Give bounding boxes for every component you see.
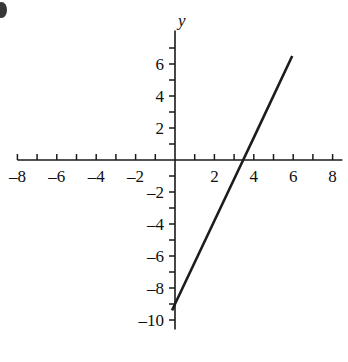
x-tick-label: –4 [87,167,106,186]
plotted-line [172,56,292,310]
y-tick-label: –4 [146,215,165,234]
y-tick-label: –2 [146,183,164,202]
y-axis-tick-labels: 642–2–4–6–8–10 [138,55,165,330]
y-axis-label: y [176,11,186,30]
y-tick-label: –6 [146,247,164,266]
y-axis-tick-group [169,48,175,320]
x-tick-label: –8 [8,167,26,186]
y-tick-label: 6 [156,55,165,74]
y-tick-label: 4 [156,87,165,106]
x-tick-label: –2 [126,167,144,186]
x-tick-label: –6 [47,167,65,186]
x-tick-label: 6 [289,167,298,186]
coordinate-plane-graph: –8–6–4–22468 642–2–4–6–8–10 x y [0,0,348,362]
x-tick-label: 4 [250,167,259,186]
x-tick-label: 8 [328,167,337,186]
x-tick-label: 2 [210,167,219,186]
figure-container: –8–6–4–22468 642–2–4–6–8–10 x y [0,0,348,362]
y-tick-label: –8 [146,279,164,298]
y-tick-label: –10 [138,311,165,330]
y-tick-label: 2 [156,119,165,138]
